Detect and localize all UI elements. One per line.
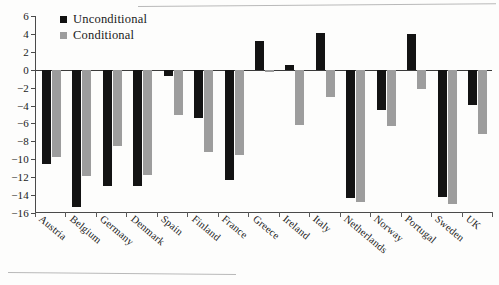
bar-group <box>405 16 426 213</box>
legend-swatch-conditional-icon <box>60 32 67 39</box>
bar-group <box>253 16 274 213</box>
bar-unconditional <box>133 70 142 186</box>
x-axis-label: UK <box>464 213 483 231</box>
x-axis-label: Finland <box>189 213 222 243</box>
bar-conditional <box>52 70 61 157</box>
bar-unconditional <box>42 70 51 164</box>
bar-conditional <box>356 70 365 203</box>
bar-unconditional <box>255 41 264 70</box>
bar-unconditional <box>72 70 81 207</box>
legend-item-conditional: Conditional <box>60 28 147 43</box>
y-axis-tick-label: −6 <box>17 118 29 129</box>
bar-unconditional <box>377 70 386 110</box>
x-axis-label: Sweden <box>433 213 466 244</box>
page-rule-top <box>138 3 496 7</box>
y-axis-tick-label: 2 <box>23 46 29 57</box>
bar-conditional <box>448 70 457 204</box>
x-axis-labels: AustriaBelgiumGermanyDenmarkSpainFinland… <box>35 213 492 283</box>
x-axis-label: France <box>220 213 250 241</box>
x-axis-label: Austria <box>37 213 69 242</box>
bar-conditional <box>113 70 122 146</box>
bar-group <box>131 16 152 213</box>
y-axis-tick-label: 0 <box>23 64 29 75</box>
chart-legend: Unconditional Conditional <box>60 12 147 44</box>
bar-unconditional <box>164 70 173 76</box>
x-axis-tick <box>492 212 493 217</box>
bar-conditional <box>82 70 91 177</box>
x-axis-label: Ireland <box>281 213 312 241</box>
bar-group <box>162 16 183 213</box>
legend-item-unconditional: Unconditional <box>60 12 147 27</box>
figure-page: 6420−2−4−6−8−10−12−14−16 AustriaBelgiumG… <box>0 0 499 285</box>
y-axis-tick-label: −14 <box>11 190 29 201</box>
bar-series-container <box>35 16 492 213</box>
bar-conditional <box>417 70 426 89</box>
bar-group <box>314 16 335 213</box>
bar-unconditional <box>407 34 416 70</box>
bar-unconditional <box>103 70 112 186</box>
bar-group <box>344 16 365 213</box>
y-axis-tick-label: −12 <box>11 172 29 183</box>
x-axis-label: Portugal <box>403 213 439 245</box>
bar-group <box>70 16 91 213</box>
bar-unconditional <box>468 70 477 105</box>
bar-conditional <box>235 70 244 155</box>
plot-area: 6420−2−4−6−8−10−12−14−16 <box>35 16 492 213</box>
bar-group <box>283 16 304 213</box>
bar-group <box>101 16 122 213</box>
bar-conditional <box>174 70 183 116</box>
bar-conditional <box>265 70 274 73</box>
x-axis-label: Italy <box>311 213 334 234</box>
bar-group <box>375 16 396 213</box>
x-axis-label: Greece <box>250 213 281 241</box>
bar-group <box>466 16 487 213</box>
legend-label-unconditional: Unconditional <box>73 13 147 26</box>
bar-conditional <box>204 70 213 152</box>
bar-group <box>436 16 457 213</box>
bar-conditional <box>295 70 304 126</box>
bar-conditional <box>478 70 487 134</box>
bar-conditional <box>326 70 335 97</box>
legend-label-conditional: Conditional <box>73 29 134 42</box>
bar-unconditional <box>346 70 355 198</box>
y-axis-tick-label: 6 <box>23 11 29 22</box>
x-axis-label: Spain <box>159 213 185 237</box>
bar-group <box>40 16 61 213</box>
bar-group <box>192 16 213 213</box>
y-axis-tick-label: −2 <box>17 82 29 93</box>
y-axis-tick-label: −16 <box>11 208 29 219</box>
x-axis-label: Belgium <box>68 213 104 246</box>
y-axis-tick-label: −8 <box>17 136 29 147</box>
y-axis-tick-label: 4 <box>23 28 29 39</box>
bar-conditional <box>387 70 396 126</box>
bar-group <box>223 16 244 213</box>
bar-unconditional <box>225 70 234 180</box>
y-axis-tick-label: −4 <box>17 100 29 111</box>
y-axis-tick-label: −10 <box>11 154 29 165</box>
bar-unconditional <box>316 33 325 70</box>
bar-unconditional <box>285 65 294 69</box>
bar-unconditional <box>194 70 203 118</box>
legend-swatch-unconditional-icon <box>60 16 67 23</box>
bar-unconditional <box>438 70 447 197</box>
bar-conditional <box>143 70 152 176</box>
